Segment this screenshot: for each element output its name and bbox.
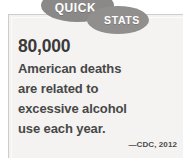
quick-stats-ribbon: QUICK STATS xyxy=(0,0,183,36)
stat-line: use each year. xyxy=(18,119,168,139)
stat-text-block: 80,000 American deaths are related to ex… xyxy=(18,36,168,139)
source-attribution: —CDC, 2012 xyxy=(128,140,177,149)
stats-badge-label: STATS xyxy=(104,15,140,26)
stats-badge-oval: STATS xyxy=(87,6,149,34)
stat-line: excessive alcohol xyxy=(18,99,168,119)
headline-number: 80,000 xyxy=(18,36,168,57)
stat-line: American deaths xyxy=(18,59,168,79)
quick-stats-infographic: QUICK STATS 80,000 American deaths are r… xyxy=(0,0,183,158)
stat-line: are related to xyxy=(18,79,168,99)
